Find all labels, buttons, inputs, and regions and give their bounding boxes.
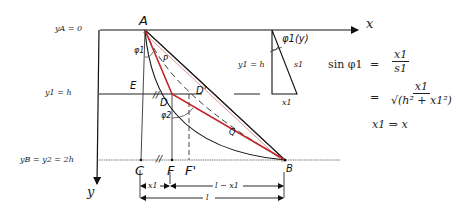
equals-2: = — [370, 91, 379, 104]
label-yB: yB = y2 = 2h — [20, 155, 74, 164]
point-P-label: P — [163, 55, 168, 64]
tick-mark-ED: // — [152, 90, 160, 100]
angle-phi1-label: φ1 — [134, 46, 144, 55]
inset-base-label: x1 — [282, 98, 292, 107]
fraction-2-denominator: √(h² + x1²) — [389, 94, 454, 107]
point-B-label: B — [286, 163, 293, 174]
point-E-label: E — [130, 80, 136, 91]
inset-hyp-label: s1 — [294, 60, 303, 69]
inset-angle-label: φ1(y) — [282, 33, 309, 44]
tick-mark-CF: // — [155, 154, 163, 164]
upper-curve-AB — [145, 30, 285, 160]
x-axis-label: x — [366, 16, 373, 31]
equation-lhs: sin φ1 — [328, 58, 362, 71]
equation-fraction-1: x1 s1 — [392, 48, 409, 75]
point-A-label: A — [139, 13, 148, 28]
angle-arc-phi1 — [145, 52, 153, 57]
dim-l-label: l — [206, 193, 209, 202]
y-axis-label: y — [87, 184, 94, 199]
point-F-prime-label: F' — [185, 163, 196, 178]
label-y1: y1 = h — [45, 88, 72, 97]
dim-x1-label: x1 — [148, 181, 158, 190]
inset-height-label: y1 = h — [238, 60, 265, 69]
dim-l-minus-x1-label: l − x1 — [215, 181, 239, 190]
equation-substitution: x1 ⇒ x — [372, 118, 408, 131]
fraction-1-numerator: x1 — [392, 48, 409, 62]
fraction-2-numerator: x1 — [413, 80, 430, 94]
label-yA: yA = 0 — [55, 24, 82, 33]
point-C-label: C — [135, 163, 144, 178]
angle-phi2-label: φ2 — [161, 111, 171, 120]
equation-fraction-2: x1 √(h² + x1²) — [389, 80, 454, 107]
point-D-prime-label: D' — [196, 85, 206, 96]
y-axis — [97, 30, 99, 184]
point-F-label: F — [167, 163, 174, 178]
fraction-1-denominator: s1 — [392, 62, 409, 75]
point-Q-label: Q — [229, 128, 235, 137]
equals-1: = — [370, 58, 379, 71]
point-D-label: D — [160, 97, 168, 108]
